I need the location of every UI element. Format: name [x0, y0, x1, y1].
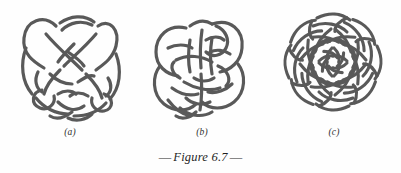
caption-dash-left: — [157, 150, 174, 164]
caption-text: Figure 6.7 [173, 150, 227, 164]
figure-plate: (a) (b) (c) —Figure 6.7— [0, 0, 401, 173]
knot-diagram-b [146, 4, 258, 126]
panel-label-a: (a) [12, 127, 128, 137]
knot-diagram-c [276, 4, 392, 126]
knot-a-svg [12, 4, 128, 126]
knot-c-svg [276, 4, 392, 126]
knot-diagram-a [12, 4, 128, 126]
panel-label-c: (c) [276, 127, 392, 137]
knot-b-svg [146, 4, 258, 126]
figure-caption: —Figure 6.7— [0, 150, 401, 165]
caption-dash-right: — [228, 150, 245, 164]
panel-label-b: (b) [146, 127, 258, 137]
